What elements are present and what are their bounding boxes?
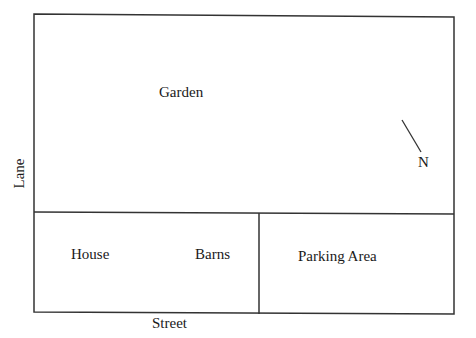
parking-area-label: Parking Area xyxy=(298,249,377,264)
site-plan-drawing xyxy=(0,0,476,338)
barns-label: Barns xyxy=(195,247,230,262)
lane-label: Lane xyxy=(12,157,27,191)
house-label: House xyxy=(71,247,109,262)
property-boundary xyxy=(34,14,454,314)
garden-divider-line xyxy=(34,212,454,214)
north-arrow-icon xyxy=(402,120,421,152)
north-label: N xyxy=(418,155,429,170)
street-label: Street xyxy=(152,316,187,331)
garden-label: Garden xyxy=(159,85,203,100)
